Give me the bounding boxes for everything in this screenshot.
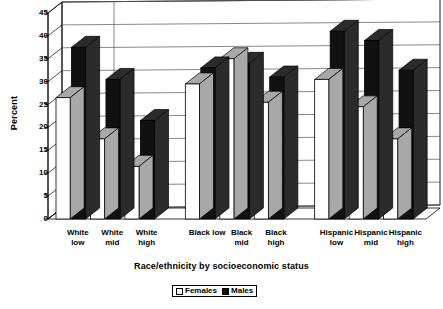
- black-square-icon: [222, 288, 229, 295]
- legend-item-females: Females: [176, 287, 217, 295]
- chart-legend: Females Males: [172, 285, 257, 297]
- x-axis-title: Race/ethnicity by socioeconomic status: [0, 261, 443, 271]
- x-tick-label-line1: Hispanic: [355, 228, 443, 238]
- bar-chart: Percent 454035302520151050 WhitelowWhite…: [0, 0, 443, 309]
- x-tick-label-hispanic-high: Hispanichigh: [355, 228, 443, 248]
- white-square-icon: [176, 288, 183, 295]
- legend-item-males: Males: [222, 287, 253, 295]
- x-tick-label-line2: high: [97, 238, 197, 248]
- bar-hispanic-low-females: [315, 68, 343, 219]
- legend-label-males: Males: [231, 287, 253, 295]
- x-axis-category-labels: WhitelowWhitemidWhitehighBlack lowBlackm…: [50, 228, 435, 264]
- legend-label-females: Females: [185, 287, 217, 295]
- x-tick-label-line2: high: [355, 238, 443, 248]
- bar-white-low-females: [56, 87, 84, 219]
- bar-black-low-females: [185, 73, 213, 219]
